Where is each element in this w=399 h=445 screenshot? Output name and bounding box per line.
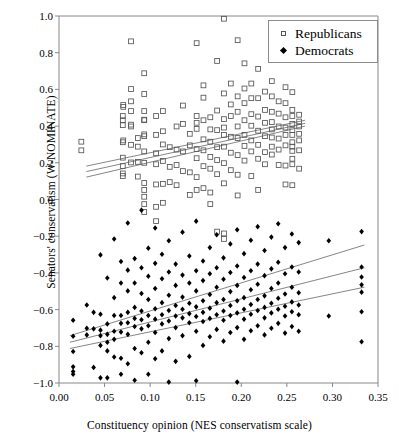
legend-label-democrats: Democrats <box>291 43 353 59</box>
legend-item-democrats: Democrats <box>275 42 369 59</box>
axis-lines <box>59 16 378 383</box>
legend-label-republicans: Republicans <box>291 26 362 42</box>
legend-item-republicans: Republicans <box>275 25 369 42</box>
legend: Republicans Democrats <box>268 20 378 63</box>
open-square-icon <box>275 31 291 36</box>
filled-diamond-icon <box>275 48 291 53</box>
scatter-plot-figure: Senators' conservatism (W-NOMINATE) Cons… <box>0 0 399 445</box>
plot-canvas <box>0 0 399 445</box>
